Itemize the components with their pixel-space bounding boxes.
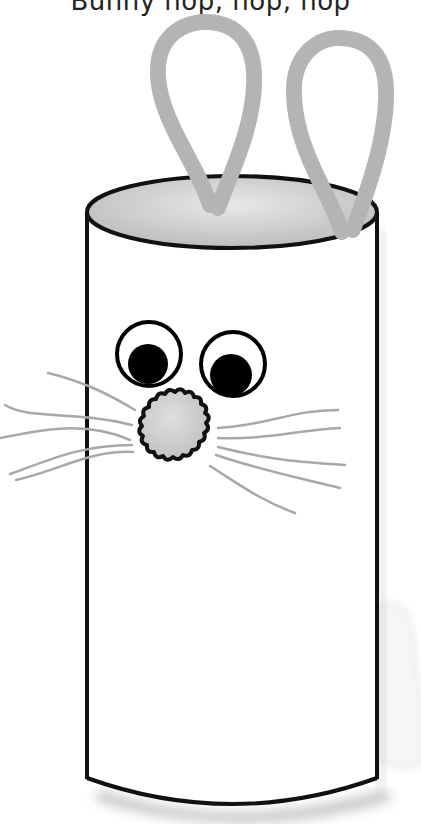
right-eye — [201, 332, 265, 396]
left-eye — [117, 322, 181, 386]
tube-body — [87, 212, 377, 804]
bunny-illustration — [0, 0, 421, 824]
pompom-nose — [139, 389, 209, 460]
